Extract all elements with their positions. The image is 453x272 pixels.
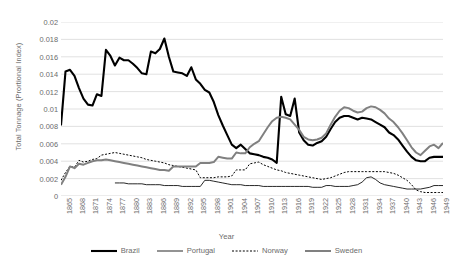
legend-label: Sweden bbox=[335, 246, 362, 255]
x-axis-tick-label: 1940 bbox=[402, 198, 411, 214]
y-axis-tick-label: 0.012 bbox=[22, 87, 58, 96]
x-axis-tick-label: 1871 bbox=[91, 198, 100, 214]
legend-swatch-sweden bbox=[305, 247, 331, 255]
y-axis-tick-label: 0.006 bbox=[22, 139, 58, 148]
x-axis-tick-label: 1925 bbox=[334, 198, 343, 214]
x-axis-tick-label: 1892 bbox=[186, 198, 195, 214]
x-axis-tick-label: 1868 bbox=[78, 198, 87, 214]
plot-area bbox=[61, 22, 443, 196]
legend-swatch-portugal bbox=[157, 247, 183, 255]
x-axis-tick-label: 1916 bbox=[294, 198, 303, 214]
x-axis-tick-label: 1919 bbox=[307, 198, 316, 214]
x-axis-tick-label: 1907 bbox=[253, 198, 262, 214]
legend-swatch-norway bbox=[232, 247, 258, 255]
x-axis-tick-label: 1883 bbox=[145, 198, 154, 214]
legend-item-sweden[interactable]: Sweden bbox=[305, 246, 362, 255]
x-axis-tick-label: 1874 bbox=[105, 198, 114, 214]
x-axis-tick-label: 1946 bbox=[429, 198, 438, 214]
legend-item-portugal[interactable]: Portugal bbox=[157, 246, 215, 255]
series-line-sweden bbox=[61, 106, 443, 184]
x-axis-tick-label: 1877 bbox=[118, 198, 127, 214]
x-axis-tick-label: 1880 bbox=[132, 198, 141, 214]
x-axis-tick-label: 1922 bbox=[321, 198, 330, 214]
x-axis-tick-label: 1949 bbox=[442, 198, 451, 214]
legend-label: Portugal bbox=[187, 246, 215, 255]
legend-label: Norway bbox=[262, 246, 288, 255]
x-axis-tick-label: 1913 bbox=[280, 198, 289, 214]
y-axis-tick-label: 0.004 bbox=[22, 157, 58, 166]
y-axis-tick-label: 0.02 bbox=[22, 18, 58, 27]
y-axis-tick-label: 0.008 bbox=[22, 122, 58, 131]
chart-legend: BrazilPortugalNorwaySweden bbox=[0, 246, 453, 255]
x-axis-tick-label: 1889 bbox=[172, 198, 181, 214]
chart-container: Total Tonnage (Prortional Index) 00.0020… bbox=[0, 0, 453, 272]
x-axis-tick-label: 1910 bbox=[267, 198, 276, 214]
x-axis-tick-label: 1886 bbox=[159, 198, 168, 214]
x-axis-tick-label: 1928 bbox=[348, 198, 357, 214]
y-axis-tick-label: 0.018 bbox=[22, 35, 58, 44]
x-axis-tick-label: 1898 bbox=[213, 198, 222, 214]
x-axis-tick-label: 1865 bbox=[65, 198, 74, 214]
x-axis-tick-labels: 1865186818711874187718801883188618891892… bbox=[61, 198, 443, 232]
x-axis-tick-label: 1934 bbox=[375, 198, 384, 214]
x-axis-tick-label: 1931 bbox=[361, 198, 370, 214]
y-axis-tick-label: 0.01 bbox=[22, 105, 58, 114]
chart-plot-svg bbox=[61, 22, 443, 196]
y-axis-tick-label: 0.002 bbox=[22, 174, 58, 183]
x-axis-tick-label: 1904 bbox=[240, 198, 249, 214]
legend-swatch-brazil bbox=[91, 247, 117, 255]
x-axis-tick-label: 1943 bbox=[415, 198, 424, 214]
legend-label: Brazil bbox=[121, 246, 140, 255]
y-axis-tick-label: 0.016 bbox=[22, 52, 58, 61]
x-axis-tick-label: 1895 bbox=[199, 198, 208, 214]
x-axis-tick-label: 1937 bbox=[388, 198, 397, 214]
x-axis-tick-label: 1901 bbox=[226, 198, 235, 214]
y-axis-tick-label: 0 bbox=[22, 192, 58, 201]
x-axis-title: Year bbox=[0, 232, 453, 241]
legend-item-brazil[interactable]: Brazil bbox=[91, 246, 140, 255]
legend-item-norway[interactable]: Norway bbox=[232, 246, 288, 255]
y-axis-tick-label: 0.014 bbox=[22, 70, 58, 79]
series-line-norway bbox=[61, 153, 443, 193]
